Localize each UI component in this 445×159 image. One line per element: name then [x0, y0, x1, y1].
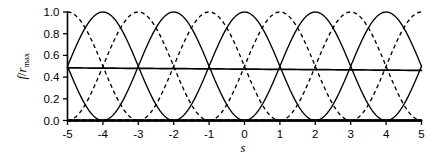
basis-curve-neg6 — [68, 66, 422, 120]
y-tick-label: 0.4 — [44, 71, 61, 83]
sum-curve-layer — [68, 68, 422, 70]
chart-figure: 0.00.20.40.60.81.0-5-4-3-2-1012345 f/rma… — [0, 0, 445, 159]
x-tick-label: -5 — [62, 128, 72, 140]
y-tick-label: 0.2 — [44, 93, 60, 105]
y-tick-label: 0.6 — [44, 49, 60, 61]
y-axis-title: f/rmax — [15, 52, 31, 79]
sum-curve — [68, 68, 422, 70]
x-tick-label: 5 — [418, 128, 424, 140]
x-tick-label: 1 — [277, 128, 283, 140]
x-tick-label: -1 — [204, 128, 214, 140]
basis-function-plot: 0.00.20.40.60.81.0-5-4-3-2-1012345 f/rma… — [0, 0, 445, 159]
y-tick-label: 0.0 — [44, 115, 60, 127]
curves-layer — [68, 12, 422, 121]
x-tick-label: 0 — [241, 128, 247, 140]
x-axis-title: s — [241, 141, 246, 155]
x-tick-label: 2 — [312, 128, 318, 140]
basis-curve-6 — [68, 66, 422, 120]
y-axis-title-text: f/rmax — [15, 52, 31, 79]
y-tick-label: 1.0 — [44, 6, 60, 18]
x-tick-label: -3 — [133, 128, 143, 140]
x-tick-label: -4 — [98, 128, 109, 140]
x-tick-label: -2 — [169, 128, 179, 140]
x-tick-label: 4 — [383, 128, 390, 140]
x-tick-label: 3 — [347, 128, 353, 140]
y-tick-label: 0.8 — [44, 28, 60, 40]
y-title-subscript: max — [21, 52, 31, 67]
